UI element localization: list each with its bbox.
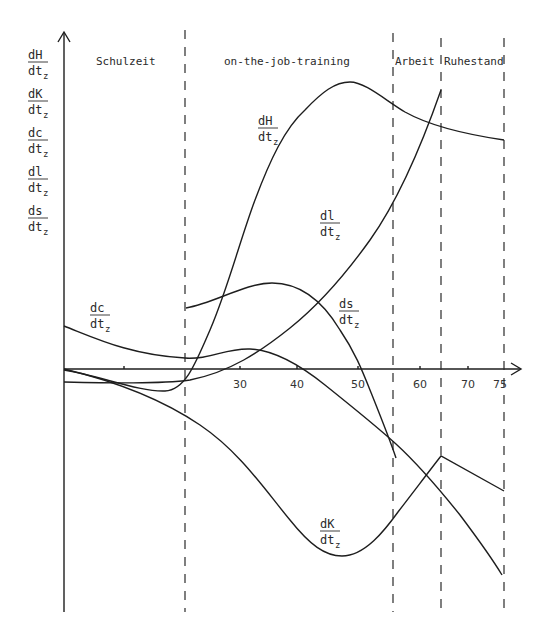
y-label-ds: ds dt z <box>28 204 48 237</box>
svg-text:z: z <box>43 188 48 198</box>
curve-label-dl: dl dt z <box>320 209 340 242</box>
svg-text:z: z <box>105 324 110 334</box>
svg-text:ds: ds <box>339 297 353 311</box>
svg-text:dt: dt <box>320 533 334 547</box>
svg-text:dK: dK <box>320 517 335 531</box>
x-tick-40: 40 <box>290 378 304 391</box>
phase-label-ojt: on-the-job-training <box>224 55 350 68</box>
svg-text:dc: dc <box>90 301 104 315</box>
curve-label-dH: dH dt z <box>258 114 278 147</box>
phase-label-ruhestand: Ruhestand <box>444 55 504 68</box>
svg-text:dH: dH <box>28 48 42 62</box>
svg-text:dt: dt <box>320 225 334 239</box>
curve-label-dc: dc dt z <box>90 301 110 334</box>
svg-text:dl: dl <box>320 209 334 223</box>
phase-label-arbeit: Arbeit <box>395 55 435 68</box>
svg-text:z: z <box>43 149 48 159</box>
svg-text:z: z <box>335 540 340 550</box>
svg-text:z: z <box>354 320 359 330</box>
x-tick-75: 75 <box>493 378 507 391</box>
svg-text:z: z <box>335 232 340 242</box>
svg-text:z: z <box>43 110 48 120</box>
svg-text:z: z <box>43 227 48 237</box>
y-axis <box>58 32 70 612</box>
curve-label-ds: ds dt z <box>339 297 359 330</box>
curve-label-dK: dK dt z <box>320 517 340 550</box>
x-tick-50: 50 <box>351 378 365 391</box>
svg-text:dt: dt <box>28 103 42 117</box>
x-tick-70: 70 <box>461 378 475 391</box>
curve-dH <box>64 82 504 391</box>
chart: 30 40 50 60 70 75 Schulzeit on-the-job-t… <box>0 0 551 641</box>
svg-text:dt: dt <box>90 317 104 331</box>
svg-text:z: z <box>273 137 278 147</box>
x-axis <box>64 363 521 375</box>
svg-text:ds: ds <box>28 204 42 218</box>
y-label-dc: dc dt z <box>28 126 48 159</box>
svg-text:dK: dK <box>28 87 43 101</box>
x-tick-30: 30 <box>233 378 247 391</box>
phase-label-schulzeit: Schulzeit <box>96 55 156 68</box>
y-label-dH: dH dt z <box>28 48 48 81</box>
svg-text:dt: dt <box>28 181 42 195</box>
svg-text:dt: dt <box>339 313 353 327</box>
svg-text:dH: dH <box>258 114 272 128</box>
svg-text:z: z <box>43 71 48 81</box>
curve-dc <box>64 326 502 575</box>
x-tick-60: 60 <box>413 378 427 391</box>
svg-text:dc: dc <box>28 126 42 140</box>
svg-text:dt: dt <box>28 142 42 156</box>
y-label-dK: dK dt z <box>28 87 48 120</box>
svg-text:dl: dl <box>28 165 42 179</box>
y-label-dl: dl dt z <box>28 165 48 198</box>
svg-text:dt: dt <box>28 64 42 78</box>
curve-dK <box>64 369 504 556</box>
svg-text:dt: dt <box>258 130 272 144</box>
svg-text:dt: dt <box>28 220 42 234</box>
curve-dl <box>64 90 441 383</box>
